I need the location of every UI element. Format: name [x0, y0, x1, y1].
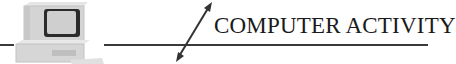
- banner-title: COMPUTER ACTIVITY: [214, 13, 456, 39]
- double-headed-arrow-icon: [168, 0, 218, 64]
- computer-icon: [14, 0, 104, 64]
